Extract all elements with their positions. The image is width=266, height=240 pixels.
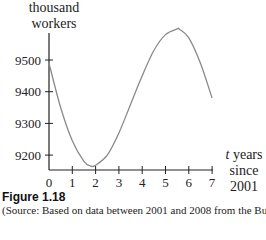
- data-curve: [49, 28, 212, 166]
- y-tick-label: 9200: [15, 148, 41, 163]
- figure-source-caption: (Source: Based on data between 2001 and …: [2, 204, 266, 216]
- x-axis-label: t years since 2001: [214, 147, 266, 195]
- y-tick-label: 9500: [15, 53, 41, 68]
- x-tick-label: 4: [139, 175, 146, 190]
- x-tick-label: 2: [92, 175, 99, 190]
- y-tick-label: 9400: [15, 84, 41, 99]
- x-axis-label-line2: since 2001: [214, 163, 266, 195]
- figure-title: Figure 1.18: [2, 190, 65, 204]
- x-tick-label: 3: [116, 175, 123, 190]
- y-tick-label: 9300: [15, 116, 41, 131]
- x-tick-label: 5: [162, 175, 169, 190]
- x-tick-label: 6: [186, 175, 193, 190]
- x-tick-label: 1: [69, 175, 76, 190]
- x-axis-unit: years: [229, 147, 262, 162]
- x-tick-label: 0: [46, 175, 53, 190]
